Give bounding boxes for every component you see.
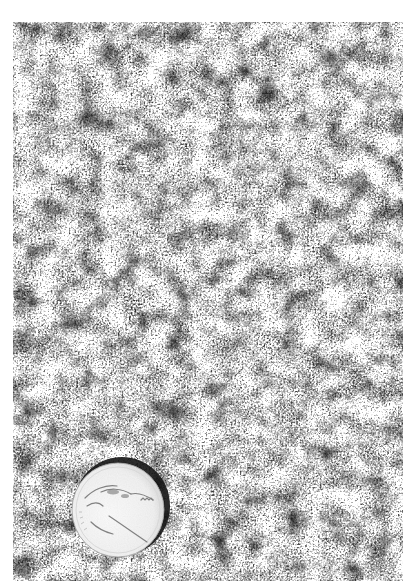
- rock-texture: [13, 22, 403, 581]
- coin: [72, 463, 164, 557]
- rock-surface-photo: [13, 22, 403, 581]
- rock-texture-graphic: [13, 22, 403, 581]
- page: [0, 0, 412, 584]
